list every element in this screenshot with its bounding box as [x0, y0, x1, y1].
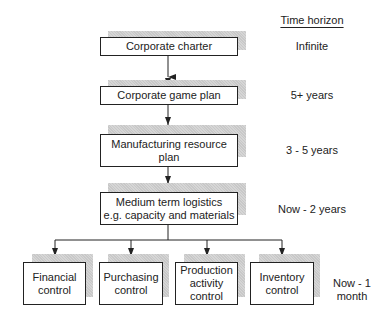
medium-term-logistics-box: Medium term logistics e.g. capacity and … [100, 192, 238, 225]
horizon-line2: month [326, 290, 378, 303]
box-label-line2: e.g. capacity and materials [104, 209, 235, 222]
box-label-line2: control [38, 284, 71, 297]
box-label-line2: activity [190, 277, 224, 290]
horizon-now-1-month: Now - 1 month [326, 277, 378, 303]
box-label-line1: Medium term logistics [116, 196, 222, 209]
horizon-infinite: Infinite [272, 40, 352, 53]
box-label-line1: Financial [32, 271, 76, 284]
box-label: Manufacturing resource plan [101, 138, 237, 164]
horizon-now-2-years: Now - 2 years [262, 203, 362, 216]
financial-control-box: Financial control [23, 262, 86, 305]
time-horizon-title: Time horizon [272, 14, 352, 27]
horizon-line1: Now - 1 [326, 277, 378, 290]
box-label: Corporate game plan [117, 89, 220, 102]
box-label-line1: Purchasing [103, 271, 158, 284]
box-label-line2: control [114, 284, 147, 297]
corporate-game-plan-box: Corporate game plan [100, 86, 238, 105]
box-label: Corporate charter [126, 40, 212, 53]
box-label-line1: Production [180, 264, 233, 277]
horizon-3-5-years: 3 - 5 years [272, 144, 352, 157]
purchasing-control-box: Purchasing control [99, 262, 163, 305]
box-label-line2: control [265, 284, 298, 297]
box-label-line3: control [190, 290, 223, 303]
box-label-line1: Inventory [259, 271, 304, 284]
inventory-control-box: Inventory control [250, 262, 314, 305]
horizon-5-plus-years: 5+ years [272, 89, 352, 102]
corporate-charter-box: Corporate charter [100, 37, 238, 56]
production-activity-control-box: Production activity control [175, 262, 238, 305]
manufacturing-resource-plan-box: Manufacturing resource plan [100, 134, 238, 167]
